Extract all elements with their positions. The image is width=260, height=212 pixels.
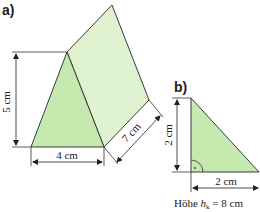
figure-a-label: a) (2, 2, 14, 18)
figure-b-label: b) (174, 79, 187, 95)
b-base-label: 2 cm (215, 175, 237, 187)
height-caption: Höhe hk = 8 cm (174, 197, 243, 211)
base-label: 4 cm (56, 149, 78, 161)
b-height-label: 2 cm (162, 124, 174, 146)
right-triangle (191, 98, 259, 172)
prism-diagram: a) 5 cm 4 cm 7 cm b) 2 cm 2 cm Höhe hk =… (0, 0, 260, 212)
figure-a-prism (12, 5, 163, 166)
height-label: 5 cm (0, 91, 12, 113)
